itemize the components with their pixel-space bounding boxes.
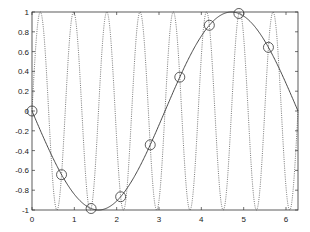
x-tick-label: 0 — [30, 215, 35, 224]
x-tick-label: 1 — [72, 215, 77, 224]
y-tick-label: -0.6 — [15, 166, 29, 175]
y-tick-label: 1 — [25, 8, 30, 17]
solid-curve — [32, 12, 298, 210]
y-tick-label: 0.4 — [18, 67, 30, 76]
x-tick-label: 5 — [241, 215, 246, 224]
x-tick-label: 6 — [284, 215, 289, 224]
y-tick-label: -0.2 — [15, 127, 29, 136]
y-tick-label: -1 — [22, 206, 30, 215]
x-tick-label: 2 — [114, 215, 119, 224]
x-tick-label: 4 — [199, 215, 204, 224]
y-tick-label: 0.6 — [18, 48, 30, 57]
solid-sine-series — [32, 12, 298, 210]
y-axis-ticks: -1-0.8-0.6-0.4-0.200.20.40.60.81 — [15, 8, 298, 215]
y-tick-label: -0.4 — [15, 147, 29, 156]
y-tick-label: 0.8 — [18, 28, 30, 37]
line-chart: 0123456 -1-0.8-0.6-0.4-0.200.20.40.60.81 — [0, 0, 310, 232]
y-tick-label: 0 — [25, 107, 30, 116]
x-tick-label: 3 — [157, 215, 162, 224]
y-tick-label: 0.2 — [18, 87, 30, 96]
y-tick-label: -0.8 — [15, 186, 29, 195]
x-axis-ticks: 0123456 — [30, 12, 289, 224]
circle-markers — [27, 8, 273, 213]
